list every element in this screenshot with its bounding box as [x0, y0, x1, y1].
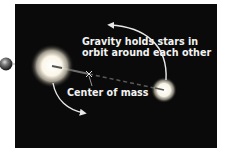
planet-icon [0, 58, 15, 71]
center-of-mass-label: Center of mass [67, 87, 149, 98]
caption-line-1: Gravity holds stars in [82, 36, 211, 47]
gravity-caption: Gravity holds stars in orbit around each… [82, 36, 211, 58]
caption-line-2: orbit around each other [82, 47, 211, 58]
binary-star-diagram [0, 0, 230, 156]
